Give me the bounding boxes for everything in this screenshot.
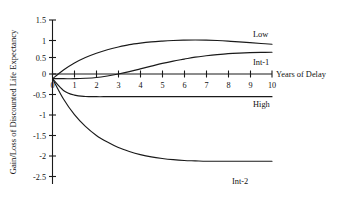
x-tick-label: 5 (160, 81, 164, 90)
series-label-high: High (253, 100, 271, 109)
x-tick-label: 9 (248, 81, 252, 90)
x-tick-label: 10 (268, 81, 276, 90)
y-axis-title: Gain/Loss of Discounted Life Expectancy (8, 29, 18, 174)
series-label-low: Low (253, 30, 269, 39)
y-axis-tick-labels: 1.5 1 0.5 0 -0.5 -1 -1.5 -2 -2.5 (33, 16, 46, 182)
line-chart: 1.5 1 0.5 0 -0.5 -1 -1.5 -2 -2.5 0 (0, 0, 342, 202)
x-tick-label: 7 (204, 81, 208, 90)
chart-container: 1.5 1 0.5 0 -0.5 -1 -1.5 -2 -2.5 0 (0, 0, 342, 202)
series-line-int-2 (53, 79, 273, 162)
y-tick-label: 0 (42, 70, 46, 79)
x-axis-title: Years of Delay (276, 70, 327, 79)
x-tick-label: 6 (182, 81, 186, 90)
x-axis-tick-labels: 0 1 2 3 4 5 6 7 8 9 10 (50, 81, 276, 90)
x-tick-label: 2 (94, 81, 98, 90)
y-tick-label: -1.5 (33, 132, 46, 141)
y-tick-label: 1 (42, 37, 46, 46)
x-tick-label: 4 (138, 81, 142, 90)
y-tick-label: 0.5 (36, 54, 46, 63)
series-label-int-1: Int-1 (253, 58, 269, 67)
y-tick-label: -1 (39, 111, 46, 120)
y-tick-label: 1.5 (36, 16, 46, 25)
y-tick-label: -0.5 (33, 91, 46, 100)
series-group (53, 40, 273, 161)
x-tick-label: 3 (116, 81, 120, 90)
x-tick-label: 1 (72, 81, 76, 90)
y-tick-label: -2 (39, 152, 46, 161)
x-tick-label: 8 (226, 81, 230, 90)
y-tick-label: -2.5 (33, 173, 46, 182)
series-label-int-2: Int-2 (232, 177, 248, 186)
